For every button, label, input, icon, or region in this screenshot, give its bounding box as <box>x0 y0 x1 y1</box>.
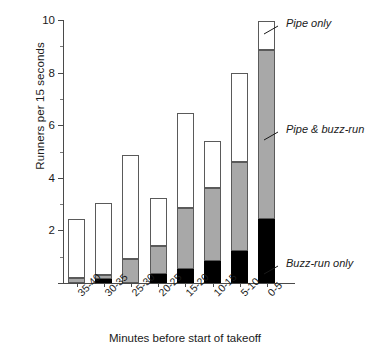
bar-25-30 <box>122 155 139 283</box>
y-tick-minor <box>60 204 63 205</box>
bar-35-40 <box>68 219 85 283</box>
y-tick-major <box>58 283 63 284</box>
bar-segment-pipe-only <box>231 73 248 162</box>
y-tick-major <box>58 73 63 74</box>
y-tick-label: 2 <box>49 224 55 236</box>
y-tick-major <box>58 178 63 179</box>
y-tick-major <box>58 230 63 231</box>
bar-segment-pipe-only <box>150 198 167 247</box>
bar-segment-pipe-only <box>204 141 221 188</box>
x-axis-title: Minutes before start of takeoff <box>0 332 370 344</box>
y-axis-title: Runners per 15 seconds <box>34 6 46 206</box>
bar-segment-pipe-buzz-run <box>177 208 194 268</box>
bar-segment-pipe-only <box>68 219 85 278</box>
bar-segment-pipe-buzz-run <box>231 162 248 251</box>
bar-0-5 <box>258 21 275 283</box>
bar-segment-pipe-only <box>95 203 112 275</box>
y-tick-minor <box>60 152 63 153</box>
bar-segment-pipe-buzz-run <box>258 50 275 218</box>
y-tick-label: 6 <box>49 119 55 131</box>
bar-15-20 <box>177 113 194 283</box>
bar-segment-pipe-only <box>258 21 275 50</box>
bar-segment-pipe-only <box>177 113 194 208</box>
y-tick-minor <box>60 46 63 47</box>
bar-segment-buzz-run-only <box>258 219 275 283</box>
bar-chart: Runners per 15 seconds 246810 35-4030-35… <box>0 0 370 356</box>
bar-20-25 <box>150 198 167 283</box>
y-tick-major <box>58 20 63 21</box>
bar-30-35 <box>95 203 112 283</box>
y-tick-minor <box>60 257 63 258</box>
annotation-pipe-only: Pipe only <box>286 17 331 29</box>
y-axis-line <box>63 20 64 283</box>
bar-segment-pipe-buzz-run <box>204 188 221 260</box>
annotation-buzz-run-only: Buzz-run only <box>286 257 353 269</box>
bar-5-10 <box>231 73 248 283</box>
bar-segment-pipe-buzz-run <box>150 246 167 274</box>
plot-area: 246810 35-4030-3525-3020-2515-2010-155-1… <box>63 20 295 283</box>
y-tick-major <box>58 125 63 126</box>
y-tick-label: 8 <box>49 67 55 79</box>
y-tick-label: 10 <box>42 14 55 26</box>
bar-10-15 <box>204 141 221 283</box>
y-tick-label: 4 <box>49 172 55 184</box>
annotation-pipe-and-buzz-run: Pipe & buzz-run <box>286 123 364 135</box>
bar-segment-pipe-only <box>122 155 139 259</box>
y-tick-minor <box>60 99 63 100</box>
